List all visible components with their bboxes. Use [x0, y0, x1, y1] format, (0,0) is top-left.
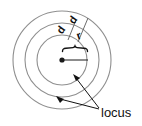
locus-arrowhead-middle-icon	[73, 74, 80, 81]
center-point	[59, 57, 64, 62]
dimension-label-d-right: d	[66, 14, 80, 26]
diagram-canvas: d d r locus	[0, 0, 142, 126]
dimension-label-d-left: d	[54, 24, 68, 36]
locus-diagram-figure: d d r locus	[0, 0, 142, 126]
locus-annotation-label: locus	[101, 105, 132, 120]
